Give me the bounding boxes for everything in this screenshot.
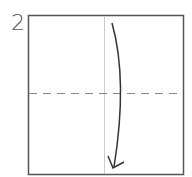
origami-diagram <box>0 0 192 177</box>
paper-square <box>29 16 184 175</box>
